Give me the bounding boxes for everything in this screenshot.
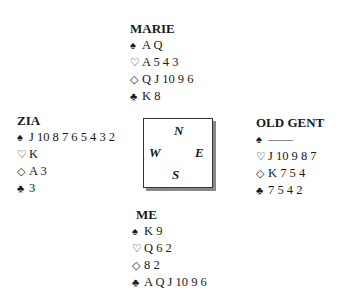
clubs-row: ♣7 5 4 2 [256,182,324,199]
diamonds-row: ◇8 2 [132,257,207,274]
compass-box: N W E S [143,118,213,188]
east-hand: OLD GENT ♠—— ♡J 10 9 8 7 ◇K 7 5 4 ♣7 5 4… [256,114,324,199]
player-name-west: ZIA [17,112,115,129]
club-icon: ♣ [132,274,144,291]
spade-icon: ♠ [17,129,29,146]
spade-icon: ♠ [130,37,142,54]
spade-icon: ♠ [132,223,144,240]
clubs-row: ♣A Q J 10 9 6 [132,274,207,291]
clubs-row: ♣3 [17,180,115,197]
clubs-row: ♣K 8 [130,88,193,105]
spades-row: ♠K 9 [132,223,207,240]
diamond-icon: ◇ [132,257,144,274]
compass-west: W [149,145,161,161]
heart-icon: ♡ [132,240,144,257]
diamonds-row: ◇K 7 5 4 [256,165,324,182]
club-icon: ♣ [130,88,142,105]
hearts-row: ♡K [17,146,115,163]
compass-south: S [172,167,179,183]
diamonds-row: ◇Q J 10 9 6 [130,71,193,88]
spade-icon: ♠ [256,131,268,148]
north-hand: MARIE ♠A Q ♡A 5 4 3 ◇Q J 10 9 6 ♣K 8 [130,20,193,105]
spades-row: ♠A Q [130,37,193,54]
heart-icon: ♡ [256,148,268,165]
heart-icon: ♡ [130,54,142,71]
club-icon: ♣ [17,180,29,197]
hearts-row: ♡Q 6 2 [132,240,207,257]
diamond-icon: ◇ [130,71,142,88]
diamonds-row: ◇A 3 [17,163,115,180]
spades-row: ♠—— [256,131,324,148]
hearts-row: ♡J 10 9 8 7 [256,148,324,165]
diamond-icon: ◇ [256,165,268,182]
player-name-north: MARIE [130,20,193,37]
spades-row: ♠J 10 8 7 6 5 4 3 2 [17,129,115,146]
diamond-icon: ◇ [17,163,29,180]
player-name-east: OLD GENT [256,114,324,131]
heart-icon: ♡ [17,146,29,163]
club-icon: ♣ [256,182,268,199]
west-hand: ZIA ♠J 10 8 7 6 5 4 3 2 ♡K ◇A 3 ♣3 [17,112,115,197]
player-name-south: ME [132,206,207,223]
compass-north: N [174,123,183,139]
south-hand: ME ♠K 9 ♡Q 6 2 ◇8 2 ♣A Q J 10 9 6 [132,206,207,291]
compass-east: E [195,145,204,161]
hearts-row: ♡A 5 4 3 [130,54,193,71]
